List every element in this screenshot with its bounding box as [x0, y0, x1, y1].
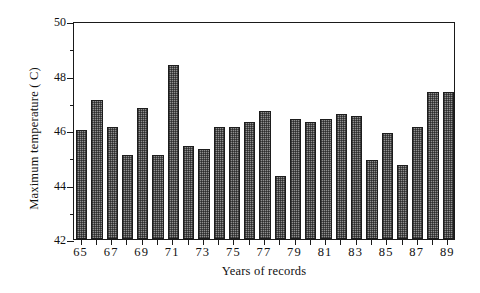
chart-figure: Maximum temperature ( C) 4244464850 6567… [0, 0, 480, 293]
bar [198, 149, 209, 239]
y-axis-major-tick [67, 78, 74, 79]
x-axis-tick [432, 240, 433, 245]
bar [107, 127, 118, 239]
plot-area [73, 22, 455, 240]
x-axis-tick-label: 65 [66, 246, 96, 260]
x-axis-tick-label: 81 [310, 246, 340, 260]
x-axis-tick-label: 73 [188, 246, 218, 260]
bar-series [74, 23, 454, 239]
bar [443, 92, 454, 239]
x-axis-title: Years of records [73, 264, 455, 279]
bar [91, 100, 102, 239]
bar [397, 165, 408, 239]
bar [122, 155, 133, 239]
x-axis-tick [249, 240, 250, 245]
x-axis-tick [188, 240, 189, 245]
x-axis-tick [157, 240, 158, 245]
x-axis-tick [279, 240, 280, 245]
bar [427, 92, 438, 239]
y-axis-tick-label: 46 [36, 125, 66, 137]
y-axis-tick-label: 44 [36, 180, 66, 192]
y-axis-major-tick [67, 23, 74, 24]
y-axis-minor-tick [70, 159, 75, 160]
y-axis-major-tick [67, 187, 74, 188]
x-axis-tick [96, 240, 97, 245]
bar [229, 127, 240, 239]
x-axis-tick-label: 71 [157, 246, 187, 260]
bar [76, 130, 87, 239]
x-axis-tick [126, 240, 127, 245]
x-axis-tick-label: 69 [127, 246, 157, 260]
x-axis-tick [340, 240, 341, 245]
bar [305, 122, 316, 239]
y-axis-major-tick [67, 132, 74, 133]
x-axis-tick-label: 67 [96, 246, 126, 260]
bar [152, 155, 163, 239]
x-axis-tick-labels: 65676971737577798183858789 [73, 246, 455, 264]
bar [412, 127, 423, 239]
bar [275, 176, 286, 239]
y-axis-tick-label: 50 [36, 16, 66, 28]
y-axis-minor-tick [70, 50, 75, 51]
bar [259, 111, 270, 239]
bar [214, 127, 225, 239]
bar [382, 133, 393, 239]
bar [320, 119, 331, 239]
y-axis-tick-label: 42 [36, 234, 66, 246]
x-axis-tick-label: 85 [371, 246, 401, 260]
y-axis-minor-tick [70, 214, 75, 215]
y-axis-tick-labels: 4244464850 [33, 22, 66, 240]
x-axis-tick-label: 89 [432, 246, 462, 260]
y-axis-tick-label: 48 [36, 71, 66, 83]
bar [168, 65, 179, 239]
x-axis-tick-label: 87 [402, 246, 432, 260]
x-axis-tick-label: 77 [249, 246, 279, 260]
x-axis-tick [371, 240, 372, 245]
x-axis-tick [402, 240, 403, 245]
x-axis-tick-label: 83 [341, 246, 371, 260]
bar [244, 122, 255, 239]
bar [183, 146, 194, 239]
y-axis-minor-tick [70, 105, 75, 106]
bar [137, 108, 148, 239]
bar [366, 160, 377, 239]
bar [336, 114, 347, 239]
x-axis-tick-label: 75 [218, 246, 248, 260]
bar [351, 116, 362, 239]
bar [290, 119, 301, 239]
x-axis-tick [218, 240, 219, 245]
x-axis-tick [310, 240, 311, 245]
x-axis-tick-label: 79 [280, 246, 310, 260]
